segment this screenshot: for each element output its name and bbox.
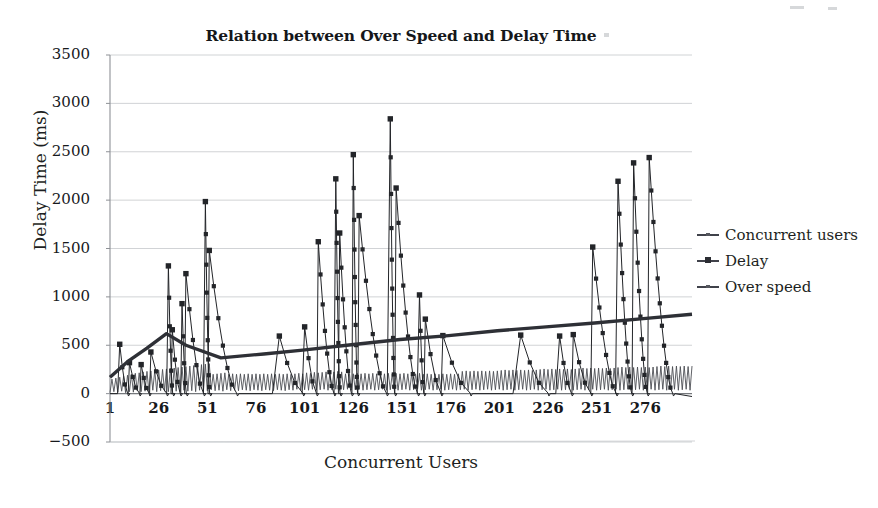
data-point-delay [148, 349, 153, 354]
data-point-delay [641, 357, 645, 361]
data-point-delay [668, 386, 672, 390]
data-point-delay [207, 248, 212, 253]
data-point-delay [142, 376, 146, 380]
data-point-delay [367, 307, 371, 311]
data-point-delay [571, 332, 576, 337]
data-point-delay [393, 185, 398, 190]
legend-label-concurrent-users: Concurrent users [725, 226, 858, 244]
data-point-delay [653, 249, 657, 253]
data-point-delay [389, 192, 393, 196]
data-point-delay [662, 344, 666, 348]
data-point-delay [355, 385, 359, 389]
data-point-delay [619, 242, 623, 246]
data-point-delay [179, 301, 184, 306]
data-point-delay [334, 210, 338, 214]
data-point-delay [144, 386, 148, 390]
data-point-delay [360, 247, 364, 251]
data-point-delay [348, 383, 352, 387]
data-point-delay [131, 375, 135, 379]
data-point-delay [371, 332, 375, 336]
data-point-delay [583, 381, 587, 385]
data-point-delay [353, 275, 357, 279]
data-point-delay [459, 381, 463, 385]
data-point-delay [170, 327, 175, 332]
data-point-delay [428, 352, 432, 356]
data-point-delay [377, 371, 381, 375]
data-point-delay [625, 359, 629, 363]
data-point-delay [166, 263, 171, 268]
chart-figure: Relation between Over Speed and Delay Ti… [0, 0, 878, 508]
data-point-delay [621, 297, 625, 301]
data-point-delay [565, 381, 569, 385]
data-point-delay [633, 196, 637, 200]
data-point-delay [388, 116, 393, 121]
data-point-delay [175, 380, 179, 384]
data-point-delay [198, 382, 202, 386]
data-point-delay [389, 226, 393, 230]
data-point-delay [173, 358, 177, 362]
data-point-delay [325, 352, 329, 356]
data-point-delay [354, 360, 358, 364]
data-point-delay [138, 362, 143, 367]
data-point-delay [381, 384, 385, 388]
data-point-delay [391, 356, 395, 360]
data-point-delay [374, 353, 378, 357]
data-point-delay [134, 386, 138, 390]
data-point-delay [339, 266, 343, 270]
data-point-delay [206, 338, 210, 342]
data-point-delay [337, 359, 341, 363]
data-point-delay [181, 334, 185, 338]
data-point-delay [327, 370, 331, 374]
data-point-delay [364, 279, 368, 283]
data-point-delay [450, 361, 454, 365]
data-point-delay [310, 379, 314, 383]
data-point-delay [333, 176, 338, 181]
data-point-delay [183, 271, 188, 276]
data-point-delay [401, 283, 405, 287]
data-point-delay [666, 375, 670, 379]
data-point-delay [306, 356, 310, 360]
data-point-delay [577, 360, 581, 364]
legend-item-concurrent-users: Concurrent users [697, 222, 872, 248]
data-point-delay [356, 213, 361, 218]
data-point-delay [323, 329, 327, 333]
legend-item-over-speed: Over speed [697, 274, 872, 300]
data-point-delay [353, 300, 357, 304]
data-point-delay [302, 324, 307, 329]
scan-artifact [790, 6, 804, 9]
data-point-delay [660, 324, 664, 328]
data-point-delay [604, 353, 608, 357]
data-point-delay [528, 360, 532, 364]
data-point-delay [205, 291, 209, 295]
data-point-delay [390, 258, 394, 262]
legend-label-delay: Delay [725, 252, 768, 270]
data-point-delay [392, 385, 396, 389]
data-point-delay [664, 361, 668, 365]
data-point-delay [167, 296, 171, 300]
data-point-delay [408, 355, 412, 359]
data-point-delay [204, 263, 208, 267]
data-point-delay [337, 230, 342, 235]
data-point-delay [207, 385, 211, 389]
data-point-delay [628, 385, 632, 389]
data-point-delay [207, 373, 211, 377]
data-point-delay [611, 384, 615, 388]
data-point-delay [337, 374, 341, 378]
data-point-delay [418, 329, 422, 333]
data-point-delay [391, 313, 395, 317]
data-point-delay [404, 310, 408, 314]
data-point-delay [159, 384, 163, 388]
data-point-delay [216, 316, 220, 320]
data-point-delay [651, 220, 655, 224]
data-point-delay [221, 344, 225, 348]
data-point-delay [411, 372, 415, 376]
data-point-delay [642, 373, 646, 377]
data-point-delay [318, 272, 322, 276]
data-point-delay [351, 152, 356, 157]
data-point-delay [285, 361, 289, 365]
data-point-delay [389, 155, 393, 159]
data-point-delay [203, 199, 208, 204]
chart-legend: Concurrent users Delay Over speed [697, 222, 872, 300]
data-point-delay [396, 221, 400, 225]
data-point-delay [537, 381, 541, 385]
